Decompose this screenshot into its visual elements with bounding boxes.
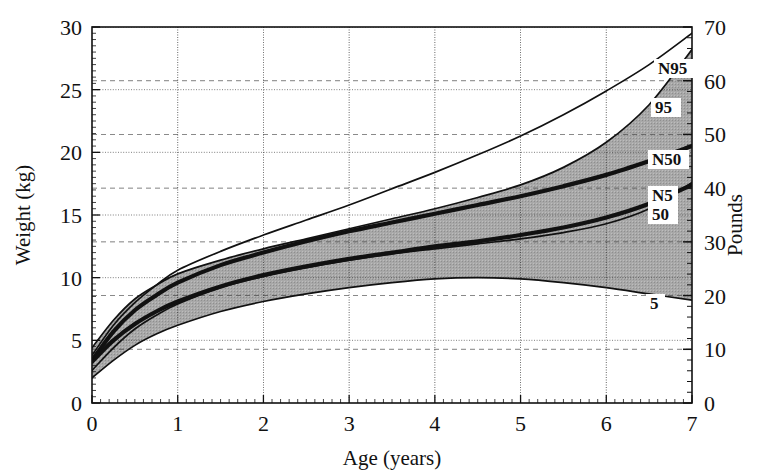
curve-label-N50: N50 (648, 150, 689, 169)
curve-label-text: N95 (658, 59, 687, 78)
x-tick-label: 1 (172, 411, 183, 436)
y2-axis-title: Pounds (723, 194, 747, 256)
curve-label-N5: N5 (648, 186, 678, 205)
y-tick-label-lb: 60 (704, 69, 726, 94)
weight-for-age-chart: 01234567051015202530010203040506070Age (… (0, 0, 767, 473)
y-tick-label-kg: 20 (60, 140, 82, 165)
curve-label-text: N50 (652, 150, 681, 169)
curve-label-95: 95 (651, 98, 681, 117)
x-tick-label: 4 (429, 411, 440, 436)
curve-label-text: 95 (655, 98, 672, 117)
y-tick-label-kg: 30 (60, 15, 82, 40)
y-tick-label-kg: 5 (71, 328, 82, 353)
x-tick-label: 7 (687, 411, 698, 436)
y-tick-label-kg: 15 (60, 203, 82, 228)
x-tick-label: 6 (601, 411, 612, 436)
y-tick-label-lb: 10 (704, 337, 726, 362)
x-tick-label: 0 (87, 411, 98, 436)
curve-label-N95: N95 (654, 59, 695, 78)
y-tick-label-lb: 0 (704, 391, 715, 416)
y-tick-label-kg: 0 (71, 391, 82, 416)
curve-label-text: 5 (650, 294, 659, 313)
curve-label-50: 50 (648, 205, 678, 224)
y-tick-label-lb: 50 (704, 122, 726, 147)
x-axis-title: Age (years) (343, 446, 442, 470)
x-tick-label: 5 (515, 411, 526, 436)
curve-label-text: 50 (652, 205, 669, 224)
y-tick-label-lb: 20 (704, 284, 726, 309)
y-tick-label-kg: 25 (60, 78, 82, 103)
y-tick-label-kg: 10 (60, 266, 82, 291)
curve-label-text: N5 (652, 186, 673, 205)
y-axis-title: Weight (kg) (11, 165, 35, 265)
x-tick-label: 2 (258, 411, 269, 436)
growth-chart-figure: 01234567051015202530010203040506070Age (… (0, 0, 767, 473)
x-tick-label: 3 (344, 411, 355, 436)
curve-label-5: 5 (646, 294, 665, 313)
y-tick-label-lb: 70 (704, 15, 726, 40)
